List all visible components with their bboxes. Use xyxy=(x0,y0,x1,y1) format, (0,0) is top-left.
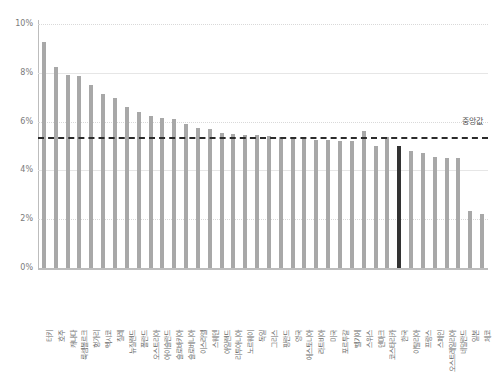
x-axis-tick-label: 에스토니아 xyxy=(307,330,314,360)
x-axis-tick-label: 프랑스 xyxy=(426,330,433,348)
x-axis-tick-label: 이탈리아 xyxy=(414,330,421,354)
x-axis-tick-label: 라트비아 xyxy=(319,330,326,354)
x-axis-tick-label: 핑란드 xyxy=(284,330,291,348)
median-reference-line xyxy=(38,137,488,139)
x-axis-tick-label: 스웨덴 xyxy=(213,330,220,348)
bar xyxy=(231,134,235,268)
bar xyxy=(172,119,176,268)
x-axis-tick-label: 포르투갈 xyxy=(343,330,350,354)
x-axis-tick-label: 일본 xyxy=(473,330,480,342)
x-axis-tick-label: 오스트레일리아 xyxy=(450,330,457,372)
y-axis-tick-label: 2% xyxy=(0,214,33,223)
gridline xyxy=(38,268,488,269)
y-axis-tick-label: 10% xyxy=(0,19,33,28)
bar xyxy=(243,135,247,268)
x-axis-tick-label: 노르웨이 xyxy=(248,330,255,354)
bar xyxy=(267,136,271,268)
bar xyxy=(374,146,378,268)
bar xyxy=(445,158,449,268)
y-axis-tick-label: 0% xyxy=(0,263,33,272)
bar xyxy=(326,140,330,268)
bar xyxy=(279,137,283,268)
bar xyxy=(421,153,425,268)
x-axis-tick-label: 이스라엘 xyxy=(201,330,208,354)
x-axis-tick-label: 멕시코 xyxy=(106,330,113,348)
bar-series xyxy=(38,24,488,268)
bar xyxy=(338,141,342,268)
x-axis-tick-label: 네덜란드 xyxy=(461,330,468,354)
x-axis-tick-label: 뉴질랜드 xyxy=(130,330,137,354)
y-axis-tick-label: 6% xyxy=(0,117,33,126)
bar xyxy=(77,76,81,268)
bar xyxy=(291,139,295,268)
bar xyxy=(196,128,200,268)
bar xyxy=(125,107,129,268)
x-axis-tick-label: 한국 xyxy=(402,330,409,342)
y-axis-tick-label: 8% xyxy=(0,68,33,77)
x-axis-tick-label: 아일랜드 xyxy=(225,330,232,354)
x-axis-tick-label: 그리스 xyxy=(272,330,279,348)
median-line-label: 중앙값 xyxy=(462,115,483,126)
x-axis-tick-label: 독일 xyxy=(260,330,267,342)
bar xyxy=(397,146,401,268)
bar xyxy=(255,135,259,268)
bar xyxy=(101,94,105,268)
plot-area xyxy=(38,24,488,268)
x-axis-tick-label: 폴란드 xyxy=(142,330,149,348)
x-axis-tick-label: 코스타리카 xyxy=(390,330,397,360)
y-axis-tick-label: 4% xyxy=(0,165,33,174)
bar xyxy=(468,211,472,268)
x-axis-tick-label: 덴마크 xyxy=(379,330,386,348)
bar xyxy=(433,157,437,268)
bar xyxy=(480,214,484,268)
x-axis-tick-label: 미국 xyxy=(331,330,338,342)
x-axis-tick-label: 슬로베니아 xyxy=(189,330,196,360)
x-axis-tick-label: 벨기에 xyxy=(355,330,362,348)
x-axis-tick-label: 영국 xyxy=(296,330,303,342)
bar xyxy=(220,133,224,268)
bar xyxy=(385,137,389,268)
bar xyxy=(350,141,354,268)
x-axis-tick-label: 체코 xyxy=(485,330,492,342)
bar xyxy=(160,118,164,268)
bar xyxy=(208,129,212,268)
x-axis-tick-label: 리투아니아 xyxy=(236,330,243,360)
x-axis-tick-label: 호주 xyxy=(59,330,66,342)
x-axis-tick-label: 헝가리 xyxy=(94,330,101,348)
x-axis-tick-label: 슬로바키아 xyxy=(177,330,184,360)
bar xyxy=(456,158,460,268)
x-axis-tick-label: 칠레 xyxy=(118,330,125,342)
bar xyxy=(66,75,70,268)
bar xyxy=(362,131,366,268)
x-axis-tick-label: 아이슬란드 xyxy=(165,330,172,360)
bar xyxy=(42,42,46,268)
bar xyxy=(89,85,93,268)
x-axis-tick-label: 스위스 xyxy=(367,330,374,348)
x-axis-tick-label: 룩셈볼르크 xyxy=(82,330,89,360)
bar xyxy=(184,124,188,268)
bar xyxy=(302,139,306,268)
x-axis-tick-label: 오스트리아 xyxy=(154,330,161,360)
bar xyxy=(54,67,58,268)
bar xyxy=(137,112,141,268)
bar xyxy=(314,140,318,268)
x-axis-tick-label: 캐나다 xyxy=(71,330,78,348)
bar xyxy=(409,151,413,268)
x-axis-labels: 터키호주캐나다룩셈볼르크헝가리멕시코칠레뉴질랜드폴란드오스트리아아이슬란드슬로바… xyxy=(38,270,488,333)
bar xyxy=(113,98,117,268)
x-axis-tick-label: 스페인 xyxy=(438,330,445,348)
x-axis-tick-label: 터키 xyxy=(47,330,54,342)
